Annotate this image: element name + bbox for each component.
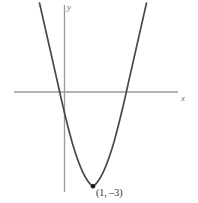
vertex-point-marker (91, 184, 96, 189)
vertex-coordinate-label: (1, –3) (96, 188, 123, 198)
parabola-curve (40, 3, 147, 186)
y-axis-label: y (67, 3, 71, 12)
graph-canvas (0, 0, 198, 203)
x-axis-label: x (181, 94, 185, 103)
parabola-figure: y x (1, –3) (0, 0, 198, 203)
